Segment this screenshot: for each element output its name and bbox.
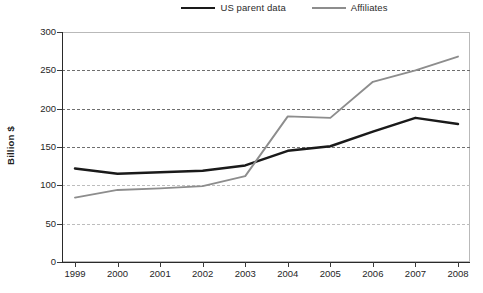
y-axis-line [62, 32, 63, 262]
x-tick-label-2004: 2004 [266, 268, 310, 279]
legend-item-affiliates: Affiliates [312, 2, 388, 13]
x-tick-mark-2000 [118, 262, 119, 267]
series-line-affiliates [75, 57, 458, 198]
legend-line-swatch-us-parent-data [181, 7, 215, 9]
x-tick-mark-2002 [203, 262, 204, 267]
plot-area [62, 32, 470, 262]
legend-item-us-parent-data: US parent data [181, 2, 285, 13]
y-tick-mark-200 [57, 109, 62, 110]
x-tick-label-2005: 2005 [308, 268, 352, 279]
x-tick-mark-2004 [288, 262, 289, 267]
x-tick-label-2008: 2008 [436, 268, 480, 279]
y-tick-mark-50 [57, 224, 62, 225]
y-tick-label-150: 150 [16, 141, 56, 152]
x-tick-mark-1999 [75, 262, 76, 267]
series-lines [62, 32, 470, 262]
y-axis-title: Billion $ [3, 105, 17, 185]
chart-legend: US parent data Affiliates [0, 2, 483, 13]
line-chart: US parent data Affiliates Billion $ 3002… [0, 0, 483, 293]
y-tick-mark-0 [57, 262, 62, 263]
x-tick-mark-2008 [458, 262, 459, 267]
y-tick-mark-300 [57, 32, 62, 33]
x-tick-label-2007: 2007 [393, 268, 437, 279]
y-tick-mark-100 [57, 185, 62, 186]
legend-label-us-parent-data: US parent data [220, 2, 285, 13]
y-tick-label-0: 0 [16, 256, 56, 267]
x-tick-label-1999: 1999 [53, 268, 97, 279]
x-tick-mark-2007 [415, 262, 416, 267]
legend-label-affiliates: Affiliates [351, 2, 388, 13]
x-tick-label-2002: 2002 [181, 268, 225, 279]
x-tick-mark-2006 [373, 262, 374, 267]
y-tick-label-200: 200 [16, 103, 56, 114]
legend-line-swatch-affiliates [312, 7, 346, 9]
x-axis-line [62, 262, 470, 263]
x-tick-mark-2003 [245, 262, 246, 267]
y-tick-label-50: 50 [16, 218, 56, 229]
x-tick-label-2003: 2003 [223, 268, 267, 279]
y-tick-label-100: 100 [16, 179, 56, 190]
x-tick-label-2000: 2000 [96, 268, 140, 279]
x-tick-label-2001: 2001 [138, 268, 182, 279]
y-axis-title-text: Billion $ [5, 126, 16, 165]
x-tick-mark-2001 [160, 262, 161, 267]
x-tick-label-2006: 2006 [351, 268, 395, 279]
y-tick-label-250: 250 [16, 64, 56, 75]
y-tick-mark-150 [57, 147, 62, 148]
y-tick-label-300: 300 [16, 26, 56, 37]
y-tick-mark-250 [57, 70, 62, 71]
x-tick-mark-2005 [330, 262, 331, 267]
